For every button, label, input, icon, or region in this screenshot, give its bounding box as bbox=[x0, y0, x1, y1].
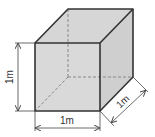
width-label: 1m bbox=[60, 115, 74, 126]
depth-label: 1m bbox=[114, 93, 132, 111]
height-label: 1m bbox=[4, 70, 15, 84]
height-dimension bbox=[15, 43, 35, 111]
cube-diagram: 1m 1m 1m bbox=[0, 0, 155, 137]
